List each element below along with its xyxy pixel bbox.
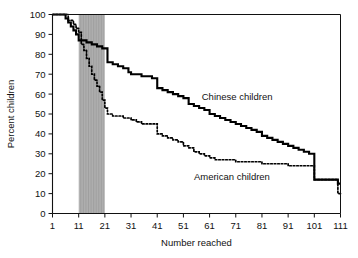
- x-tick-label: 21: [100, 220, 111, 231]
- x-tick-label: 1: [50, 220, 55, 231]
- y-tick-label: 30: [35, 148, 46, 159]
- y-tick-label: 80: [35, 49, 46, 60]
- x-tick-label: 31: [126, 220, 137, 231]
- x-tick-label: 51: [178, 220, 189, 231]
- y-tick-label: 20: [35, 168, 46, 179]
- x-tick-label: 81: [257, 220, 268, 231]
- y-tick-label: 70: [35, 69, 46, 80]
- chart-container: 0102030405060708090100111213141516171819…: [0, 0, 358, 258]
- y-tick-label: 40: [35, 128, 46, 139]
- x-tick-label: 111: [333, 220, 347, 231]
- y-tick-label: 100: [30, 9, 46, 20]
- x-tick-label: 61: [204, 220, 215, 231]
- percent-children-line-chart: 0102030405060708090100111213141516171819…: [0, 0, 358, 258]
- x-tick-label: 41: [152, 220, 163, 231]
- series-annotation-2: American children: [194, 171, 270, 182]
- y-tick-label: 0: [40, 208, 45, 219]
- y-tick-label: 90: [35, 29, 46, 40]
- y-tick-label: 60: [35, 89, 46, 100]
- x-tick-label: 91: [283, 220, 294, 231]
- x-tick-label: 101: [306, 220, 322, 231]
- series-annotation-1: Chinese children: [202, 91, 273, 102]
- y-axis-title: Percent children: [5, 80, 16, 149]
- x-axis-title: Number reached: [161, 237, 232, 248]
- y-tick-label: 50: [35, 108, 46, 119]
- y-tick-label: 10: [35, 188, 46, 199]
- x-tick-label: 71: [230, 220, 241, 231]
- x-tick-label: 11: [74, 220, 84, 231]
